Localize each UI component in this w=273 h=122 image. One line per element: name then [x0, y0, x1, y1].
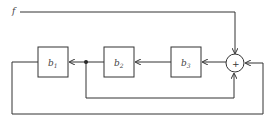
block-b3: b3: [171, 47, 201, 77]
block-b2: b2: [104, 47, 134, 77]
plus-symbol: +: [232, 59, 240, 69]
input-label-f: f: [11, 6, 17, 16]
block-b1: b1: [38, 47, 68, 77]
summing-junction: +: [226, 54, 244, 72]
block-diagram: f + b3 b2 b1: [0, 0, 273, 122]
